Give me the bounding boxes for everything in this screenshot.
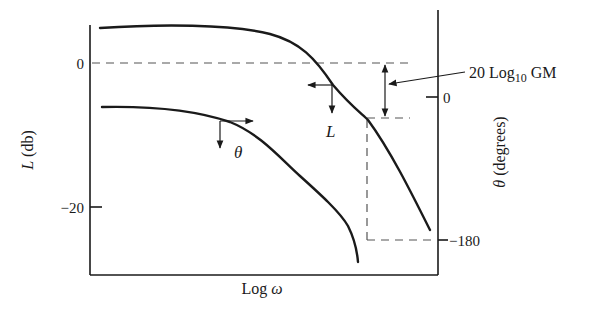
gain-margin-label: 20 Log10 GM <box>469 64 557 85</box>
right-axis-unit: (degrees) <box>491 116 509 176</box>
gm-label-subscript: 10 <box>515 71 527 85</box>
L-curve-label: L <box>325 122 335 141</box>
magnitude-curve <box>100 26 430 230</box>
gm-label-prefix: 20 Log <box>469 64 515 82</box>
right-axis-label: θ(degrees) <box>491 116 509 187</box>
right-tick-label-minus180: −180 <box>449 233 480 249</box>
gm-leader-arrow <box>389 72 465 84</box>
left-axis-symbol: L <box>19 161 36 171</box>
left-tick-label-minus20: −20 <box>61 200 84 216</box>
right-tick-label-0: 0 <box>443 90 451 106</box>
x-axis-label: Logω <box>241 280 282 298</box>
phase-curve <box>102 107 358 262</box>
axes <box>90 10 448 275</box>
bode-diagram: 0 −20 0 −180 L(db) θ(degrees) Logω θ L 2… <box>0 0 597 311</box>
x-axis-symbol: ω <box>271 280 282 297</box>
gm-label-suffix: GM <box>527 64 557 81</box>
theta-curve-label: θ <box>234 143 242 162</box>
x-axis-prefix: Log <box>241 280 267 298</box>
left-tick-label-0: 0 <box>77 56 85 72</box>
left-axis-unit: (db) <box>19 130 37 157</box>
left-axis-label: L(db) <box>19 130 37 171</box>
right-axis-symbol: θ <box>491 180 508 188</box>
